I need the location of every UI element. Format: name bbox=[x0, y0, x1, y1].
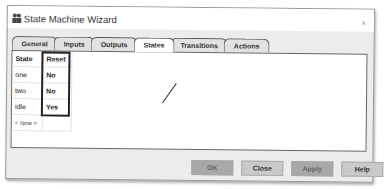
tab-outputs[interactable]: Outputs bbox=[91, 37, 138, 51]
tab-transitions[interactable]: Transitions bbox=[170, 38, 227, 53]
reset-column-highlight bbox=[41, 51, 71, 116]
close-button[interactable]: Close bbox=[241, 160, 283, 175]
state-machine-wizard-window: State Machine Wizard × General Inputs Ou… bbox=[5, 5, 375, 183]
ok-button[interactable]: OK bbox=[191, 160, 233, 175]
close-icon[interactable]: × bbox=[361, 19, 366, 28]
tab-inputs[interactable]: Inputs bbox=[54, 36, 95, 50]
help-button[interactable]: Help bbox=[341, 162, 383, 177]
state-cell[interactable]: idle bbox=[12, 99, 43, 115]
states-panel: State Reset one No two No idle Yes < New… bbox=[11, 50, 368, 152]
state-cell[interactable]: two bbox=[12, 83, 43, 99]
annotation-arrow bbox=[162, 83, 177, 103]
people-icon bbox=[12, 13, 22, 23]
tab-states[interactable]: States bbox=[133, 37, 174, 52]
window-title: State Machine Wizard bbox=[24, 13, 117, 25]
apply-button[interactable]: Apply bbox=[291, 161, 333, 176]
empty-cell bbox=[42, 115, 71, 131]
new-row[interactable]: < New > bbox=[12, 115, 72, 132]
button-row: OK Close Apply Help bbox=[191, 160, 383, 177]
state-cell[interactable]: one bbox=[12, 67, 43, 83]
title-bar: State Machine Wizard × bbox=[8, 6, 374, 32]
tab-actions[interactable]: Actions bbox=[224, 38, 270, 52]
header-state: State bbox=[12, 51, 43, 67]
tab-general[interactable]: General bbox=[12, 36, 58, 50]
new-row-button[interactable]: < New > bbox=[12, 115, 43, 131]
